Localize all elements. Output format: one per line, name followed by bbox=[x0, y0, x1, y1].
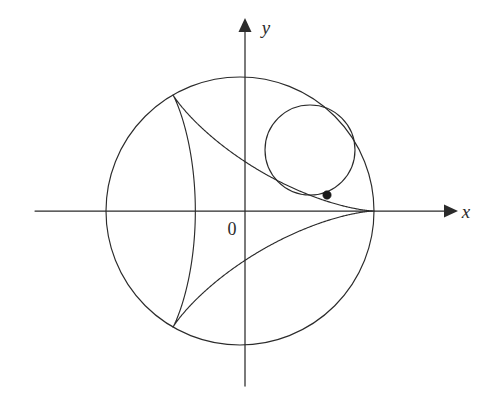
x-axis-label: x bbox=[461, 201, 471, 222]
x-axis-arrow-icon bbox=[444, 205, 458, 218]
origin-label: 0 bbox=[228, 219, 237, 239]
y-axis-label: y bbox=[260, 17, 271, 38]
tracing-point-marker bbox=[323, 191, 331, 199]
deltoid-diagram: x y 0 bbox=[0, 0, 492, 411]
figure-canvas: x y 0 bbox=[0, 0, 492, 411]
y-axis-arrow-icon bbox=[239, 18, 252, 32]
